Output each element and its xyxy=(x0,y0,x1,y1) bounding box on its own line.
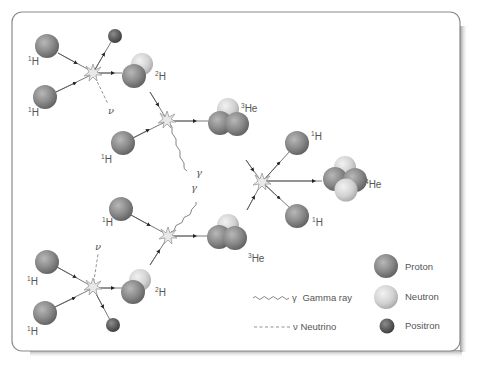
neutron-legend-label: Neutron xyxy=(405,291,439,302)
gamma-legend-symbol: γ xyxy=(292,292,297,303)
gamma-symbol: γ xyxy=(196,167,202,178)
positron xyxy=(108,29,122,43)
proton xyxy=(33,85,57,109)
proton xyxy=(285,131,309,155)
gamma-legend-label: Gamma ray xyxy=(302,292,352,303)
neutrino-symbol: ν xyxy=(95,241,101,252)
neutrino-legend-symbol: ν xyxy=(293,321,298,332)
proton xyxy=(121,280,145,304)
proton xyxy=(35,34,59,58)
proton-icon xyxy=(374,254,398,278)
proton xyxy=(33,301,57,325)
neutrino-legend-label: Neutrino xyxy=(300,321,336,332)
svg-text:ν Neutrino: ν Neutrino xyxy=(293,321,336,332)
proton-legend-label: Proton xyxy=(405,261,433,272)
pp-chain-diagram: 1H 1H 2H ν 1H 3He γ 1H 3He xyxy=(0,0,479,367)
panel xyxy=(12,12,468,358)
gamma-symbol: γ xyxy=(191,182,197,193)
neutron-icon xyxy=(374,285,398,309)
proton xyxy=(223,226,247,250)
positron-legend-label: Positron xyxy=(405,320,440,331)
positron-icon xyxy=(380,319,395,334)
positron xyxy=(106,318,120,332)
proton xyxy=(225,112,249,136)
panel-shadow-right xyxy=(460,26,468,352)
proton xyxy=(285,204,309,228)
proton xyxy=(122,64,146,88)
proton xyxy=(35,250,59,274)
neutron xyxy=(335,179,358,202)
neutrino-symbol: ν xyxy=(108,105,114,116)
proton xyxy=(111,131,135,155)
